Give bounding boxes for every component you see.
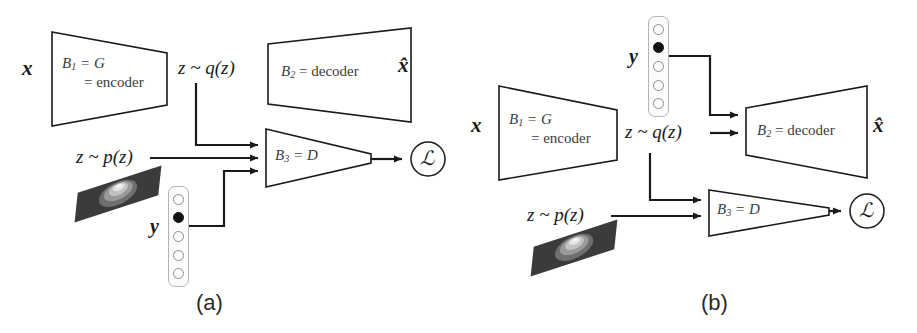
onehot-cell	[173, 250, 184, 261]
label-condition-y: y	[629, 46, 638, 66]
onehot-cell	[653, 61, 664, 72]
label-latent-prior: z ~ p(z)	[76, 147, 133, 166]
gaussian-surface-plot	[522, 220, 626, 277]
decoder-block-label: B2 = decoder	[757, 123, 835, 139]
input-label-x: x	[471, 115, 482, 136]
discriminator-block-line1: B3 = D	[275, 147, 318, 163]
loss-symbol: ℒ	[859, 200, 873, 220]
panel-b: x B1 = G = encoder z ~ q(z) B2 = decoder…	[459, 0, 917, 333]
label-latent-posterior: z ~ q(z)	[625, 122, 682, 141]
panel-a: x B1 = G = encoder z ~ q(z) B2 = decoder…	[0, 0, 458, 333]
onehot-cell	[173, 231, 184, 242]
encoder-block-label: B1 = G = encoder	[509, 112, 591, 146]
onehot-vector-y	[648, 16, 669, 117]
decoder-block-label: B2 = decoder	[281, 64, 359, 80]
decoder-block-line1: B2 = decoder	[757, 122, 835, 138]
onehot-vector-y	[168, 186, 189, 287]
panel-b-graphics	[459, 0, 917, 333]
onehot-cell	[653, 98, 664, 109]
label-latent-posterior: z ~ q(z)	[178, 58, 235, 77]
edge-condition-to-decoder	[667, 56, 738, 115]
encoder-block-line1: B1 = G	[509, 111, 552, 127]
loss-symbol: ℒ	[420, 148, 434, 168]
edge-posterior-to-discriminator	[196, 83, 258, 145]
encoder-block-line1: B1 = G	[62, 55, 105, 71]
onehot-cell	[653, 24, 664, 35]
output-label-xhat: x̂	[873, 115, 884, 136]
encoder-block-line2: = encoder	[531, 131, 591, 146]
decoder-block-line1: B2 = decoder	[281, 63, 359, 79]
edge-condition-to-discriminator	[187, 171, 258, 226]
encoder-block-label: B1 = G = encoder	[62, 56, 144, 90]
panel-caption-a: (a)	[196, 292, 223, 314]
onehot-cell-active	[653, 42, 664, 53]
label-condition-y: y	[150, 216, 159, 236]
figure-canvas: x B1 = G = encoder z ~ q(z) B2 = decoder…	[0, 0, 917, 333]
discriminator-block-label: B3 = D	[717, 202, 760, 218]
onehot-cell	[653, 80, 664, 91]
onehot-cell	[173, 268, 184, 279]
discriminator-block-label: B3 = D	[275, 148, 318, 164]
gaussian-surface-plot	[66, 166, 170, 223]
onehot-cell	[173, 194, 184, 205]
panel-a-graphics	[0, 0, 458, 333]
edge-posterior-to-discriminator	[650, 153, 701, 200]
input-label-x: x	[22, 58, 33, 79]
label-latent-prior: z ~ p(z)	[527, 205, 584, 224]
onehot-cell-active	[173, 212, 184, 223]
discriminator-block-line1: B3 = D	[717, 201, 760, 217]
panel-caption-b: (b)	[701, 292, 728, 314]
output-label-xhat: x̂	[398, 55, 409, 76]
encoder-block-line2: = encoder	[84, 75, 144, 90]
